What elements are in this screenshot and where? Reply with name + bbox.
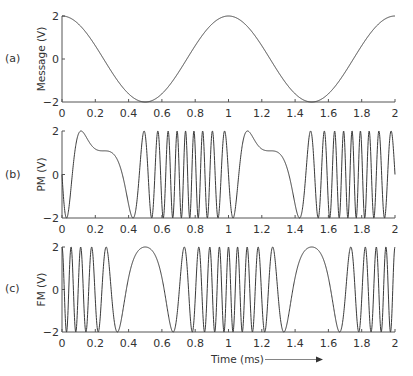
modulation-figure: 00.20.40.60.811.21.41.61.82−202Message (…	[0, 0, 413, 376]
x-tick-label: 1.2	[253, 223, 271, 236]
y-axis-title: PM (V)	[35, 157, 47, 191]
x-tick-label: 0.2	[87, 223, 105, 236]
y-tick-label: 2	[52, 125, 59, 138]
x-tick-label: 1.4	[286, 223, 304, 236]
x-axis-title: Time (ms)	[210, 353, 264, 365]
x-tick-label: 0.4	[120, 107, 138, 120]
x-tick-label: 2	[392, 223, 399, 236]
x-tick-label: 0.8	[186, 107, 204, 120]
x-tick-label: 0.4	[120, 223, 138, 236]
y-tick-label: 2	[52, 10, 59, 23]
y-tick-label: −2	[43, 326, 59, 339]
x-tick-label: 1	[225, 223, 232, 236]
x-tick-label: 0.8	[186, 223, 204, 236]
signal-curve	[62, 247, 395, 332]
y-tick-label: 2	[52, 241, 59, 254]
panel-message: 00.20.40.60.811.21.41.61.82−202Message (…	[5, 10, 399, 120]
signal-curve	[62, 131, 395, 218]
x-tick-label: 2	[392, 337, 399, 350]
x-tick-label: 0.4	[120, 337, 138, 350]
x-tick-label: 0	[59, 337, 66, 350]
panel-label: (b)	[5, 168, 21, 181]
y-tick-label: 0	[52, 169, 59, 182]
signal-curve	[62, 16, 395, 102]
x-tick-label: 0.6	[153, 107, 171, 120]
panel-label: (c)	[5, 282, 20, 295]
x-tick-label: 0	[59, 223, 66, 236]
x-tick-label: 0.2	[87, 107, 105, 120]
x-tick-label: 1.8	[353, 107, 371, 120]
y-tick-label: −2	[43, 96, 59, 109]
x-tick-label: 0.6	[153, 223, 171, 236]
panel-label: (a)	[5, 52, 20, 65]
y-tick-label: 0	[52, 53, 59, 66]
x-tick-label: 1.2	[253, 107, 271, 120]
y-tick-label: 0	[52, 284, 59, 297]
x-tick-label: 1.6	[320, 223, 338, 236]
x-tick-label: 0.6	[153, 337, 171, 350]
time-arrow-icon	[265, 357, 323, 363]
x-tick-label: 0	[59, 107, 66, 120]
x-tick-label: 1.6	[320, 337, 338, 350]
x-tick-label: 1.6	[320, 107, 338, 120]
x-tick-label: 0.8	[186, 337, 204, 350]
y-axis-title: Message (V)	[35, 27, 47, 92]
x-tick-label: 1	[225, 107, 232, 120]
x-tick-label: 1.4	[286, 337, 304, 350]
x-tick-label: 1.4	[286, 107, 304, 120]
x-tick-label: 1.8	[353, 223, 371, 236]
x-tick-label: 1.8	[353, 337, 371, 350]
y-axis-title: FM (V)	[35, 273, 47, 307]
x-tick-label: 2	[392, 107, 399, 120]
x-tick-label: 1.2	[253, 337, 271, 350]
panel-fm: 00.20.40.60.811.21.41.61.82−202FM (V)(c)	[5, 241, 399, 350]
x-tick-label: 1	[225, 337, 232, 350]
y-tick-label: −2	[43, 212, 59, 225]
x-tick-label: 0.2	[87, 337, 105, 350]
panel-pm: 00.20.40.60.811.21.41.61.82−202PM (V)(b)	[5, 125, 399, 236]
